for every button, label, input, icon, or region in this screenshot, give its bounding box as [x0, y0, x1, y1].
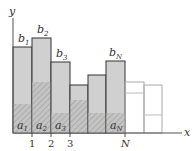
bn-label: bN: [109, 46, 123, 61]
tick-label-2: 2: [48, 138, 54, 149]
tick-label-1: 1: [29, 138, 35, 149]
x-axis-label: x: [184, 126, 191, 139]
empty-bar-1: [125, 82, 144, 133]
tick-label-3: 3: [67, 138, 73, 149]
bar-5: [88, 75, 106, 133]
empty-bar-2: [144, 85, 162, 133]
b3-label: b3: [56, 47, 68, 62]
b2-label: b2: [37, 23, 49, 38]
b1-label: b1: [18, 32, 30, 47]
tick-label-n: N: [120, 138, 131, 149]
bar-4: [70, 85, 88, 133]
y-axis-label: y: [8, 5, 16, 18]
histogram-diagram: y x 1 2 3 N b1 b2 b3 bN a1 a2 a3 aN: [0, 0, 194, 151]
